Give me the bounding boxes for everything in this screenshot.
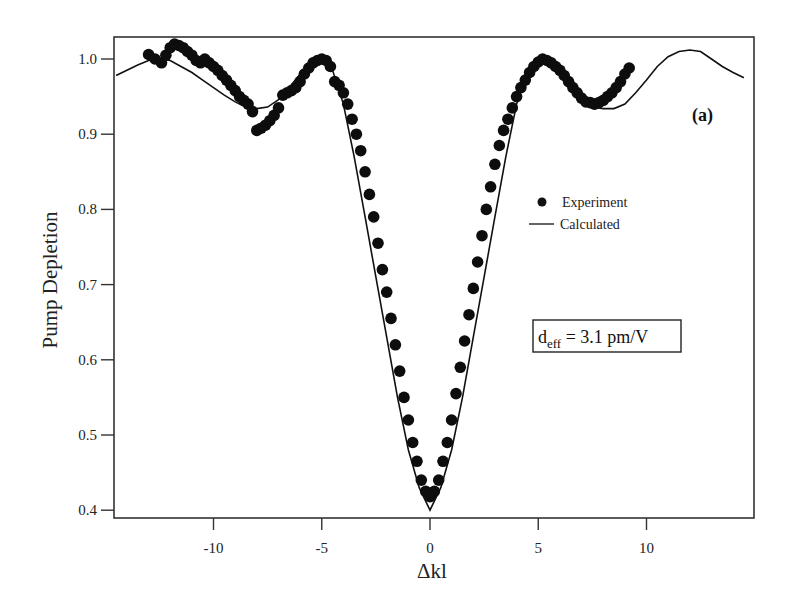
experiment-point [442,437,454,449]
experiment-point [381,286,393,298]
experiment-point [437,456,449,468]
experiment-point [411,456,423,468]
experiment-point [364,189,376,201]
experiment-point [390,339,402,351]
experiment-point [273,102,285,114]
y-tick-label: 0.8 [78,201,97,217]
experiment-point [502,113,514,125]
experiment-point [476,230,488,242]
experiment-point [247,106,259,118]
x-tick-label: -10 [204,540,224,556]
legend-experiment-marker-icon [538,198,547,207]
y-tick-label: 0.7 [78,277,97,293]
experiment-point [394,365,406,377]
experiment-point [342,98,354,110]
deff-annotation: deff = 3.1 pm/V [533,320,681,352]
legend-calculated-label: Calculated [560,217,620,232]
y-tick-label: 0.4 [78,502,97,518]
experiment-point [489,159,501,171]
experiment-point [481,204,493,216]
experiment-point [446,414,458,426]
experiment-point [507,102,519,114]
experiment-point [433,474,445,486]
experiment-point [485,181,497,193]
experiment-point [325,61,337,73]
y-tick-label: 1.0 [78,51,97,67]
experiment-point [407,437,419,449]
experiment-point [416,474,428,486]
y-tick-label: 0.5 [78,427,97,443]
experiment-point [623,62,635,74]
experiment-point [372,237,384,249]
pump-depletion-chart: 0.40.50.60.70.80.91.0 -10-50510 Pump Dep… [0,0,792,605]
experiment-point [450,388,462,400]
experiment-point [368,211,380,223]
experiment-point [398,392,410,404]
experiment-point [359,166,371,178]
x-tick-label: 0 [426,540,434,556]
chart-background [0,0,792,605]
y-axis-title: Pump Depletion [38,211,62,349]
experiment-point [459,335,471,347]
experiment-point [346,113,358,125]
experiment-point [355,145,367,157]
x-tick-label: -5 [316,540,329,556]
experiment-point [494,140,506,152]
x-axis-title: Δkl [417,559,447,583]
experiment-point [338,87,350,99]
y-tick-label: 0.6 [78,352,97,368]
panel-label: (a) [692,105,713,126]
experiment-point [472,256,484,268]
experiment-point [385,313,397,325]
experiment-point [377,264,389,276]
experiment-point [498,125,510,137]
x-tick-label: 10 [639,540,654,556]
experiment-point [468,283,480,295]
experiment-point [351,128,363,140]
x-tick-label: 5 [535,540,543,556]
y-tick-label: 0.9 [78,126,97,142]
experiment-point [403,414,415,426]
experiment-point [429,486,441,498]
experiment-point [463,309,475,321]
legend-experiment-label: Experiment [562,195,627,210]
experiment-point [455,362,467,374]
